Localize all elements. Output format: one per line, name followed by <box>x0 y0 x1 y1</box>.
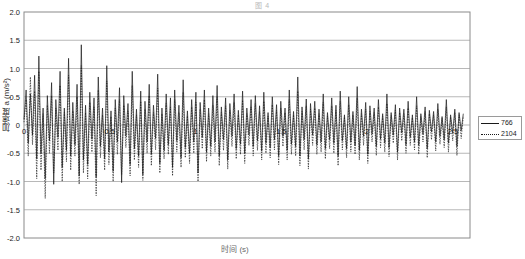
x-axis-label: 时间 (s) <box>0 243 470 254</box>
svg-text:0.5: 0.5 <box>10 93 20 102</box>
svg-text:1.5: 1.5 <box>10 36 20 45</box>
svg-text:-2.0: -2.0 <box>7 234 20 243</box>
svg-text:0: 0 <box>16 121 20 130</box>
chart-legend: 766 2104 <box>478 116 522 140</box>
svg-text:1.0: 1.0 <box>10 65 20 74</box>
legend-swatch-dotted-icon <box>481 131 499 137</box>
svg-text:0: 0 <box>22 127 26 136</box>
legend-label-1: 2104 <box>499 129 517 138</box>
acceleration-time-chart: 图 4 加速度 a (m/s²) 2.01.51.00.50-0.5-1.0-1… <box>0 0 525 259</box>
legend-swatch-solid-icon <box>481 120 499 126</box>
svg-text:-1.0: -1.0 <box>7 178 20 187</box>
svg-text:-1.5: -1.5 <box>7 206 20 215</box>
legend-item-1: 2104 <box>479 128 521 139</box>
svg-text:-0.5: -0.5 <box>7 149 20 158</box>
legend-item-0: 766 <box>479 117 521 128</box>
legend-label-0: 766 <box>499 118 513 127</box>
svg-text:2.0: 2.0 <box>10 8 20 17</box>
chart-plot-area: 2.01.51.00.50-0.5-1.0-1.5-2.000.511.522.… <box>0 0 525 259</box>
